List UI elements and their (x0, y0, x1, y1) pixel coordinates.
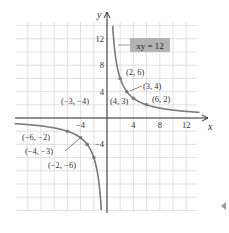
data-point (66, 129, 70, 133)
data-point (132, 96, 136, 100)
data-point (145, 103, 149, 107)
data-point (79, 136, 83, 140)
previous-arrow-icon[interactable] (221, 202, 226, 210)
x-tick-label: 4 (131, 120, 136, 130)
point-label: (−4, −3) (25, 146, 53, 156)
point-label: (6, 2) (152, 94, 171, 104)
y-tick-label: 8 (100, 60, 104, 70)
data-point (92, 156, 96, 160)
y-tick-label: −4 (95, 139, 105, 149)
point-label: (−2, −6) (48, 160, 76, 170)
point-label: (3, 4) (143, 81, 162, 91)
x-tick-label: −4 (76, 120, 86, 130)
equation-text: xy = 12 (136, 41, 164, 51)
data-point (118, 77, 122, 81)
point-label: (−6, −2) (22, 132, 50, 142)
hyperbola-chart: xy −448121284−4 (2, 6)(3, 4)(4, 3)(6, 2)… (0, 0, 229, 233)
point-label: (−3, −4) (61, 96, 89, 106)
equation-label: xy = 12 (118, 38, 170, 52)
data-point (85, 143, 89, 147)
x-tick-label: 8 (158, 120, 162, 130)
point-label: (4, 3) (110, 96, 129, 106)
point-label: (2, 6) (126, 67, 145, 77)
data-point (125, 90, 129, 94)
y-axis-label: y (96, 9, 102, 20)
y-tick-label: 12 (96, 34, 105, 44)
x-axis-label: x (207, 121, 213, 132)
x-tick-label: 12 (182, 120, 191, 130)
